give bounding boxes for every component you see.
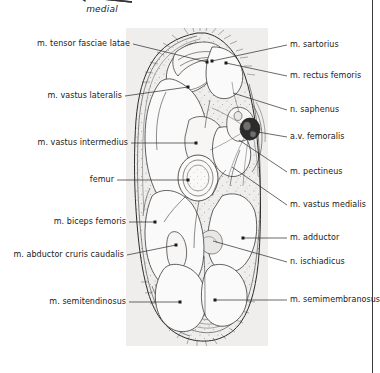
orientation-indicator: medial bbox=[54, 0, 150, 24]
label-femur: femur bbox=[90, 175, 114, 185]
label-rectus-femoris: m. rectus femoris bbox=[290, 71, 361, 81]
label-tensor-fasciae-latae: m. tensor fasciae latae bbox=[37, 39, 130, 49]
label-abductor-cruris-caudalis: m. abductor cruris caudalis bbox=[13, 250, 124, 260]
label-av-femoralis: a.v. femoralis bbox=[290, 132, 345, 142]
label-semimembranosus: m. semimembranosus bbox=[290, 295, 380, 305]
label-ischiadicus: n. ischiadicus bbox=[290, 257, 345, 267]
orientation-label: medial bbox=[54, 4, 150, 14]
label-vastus-lateralis: m. vastus lateralis bbox=[47, 91, 122, 101]
label-saphenus: n. saphenus bbox=[290, 105, 339, 115]
label-pectineus: m. pectineus bbox=[290, 167, 342, 177]
page-margin-rule bbox=[372, 0, 373, 373]
anatomy-figure: medial bbox=[0, 0, 380, 373]
label-semitendinosus: m. semitendinosus bbox=[49, 297, 126, 307]
label-vastus-intermedius: m. vastus intermedius bbox=[38, 138, 128, 148]
label-vastus-medialis: m. vastus medialis bbox=[290, 200, 366, 210]
label-biceps-femoris: m. biceps femoris bbox=[54, 217, 126, 227]
label-sartorius: m. sartorius bbox=[290, 40, 339, 50]
label-adductor: m. adductor bbox=[290, 233, 339, 243]
anatomical-cross-section bbox=[126, 28, 268, 346]
